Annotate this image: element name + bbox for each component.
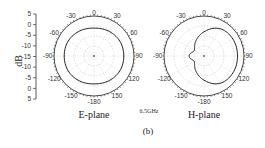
radiation-pattern-figure: 50-5-10-15-10-505 dB 0306090120150-180-1… — [0, 0, 265, 148]
db-tick-label: -5 — [25, 31, 31, 38]
angle-tick-label: -180 — [87, 98, 100, 105]
angle-tick-label: 30 — [113, 12, 121, 19]
h-plane-title: H-plane — [188, 109, 221, 120]
angle-tick-label: 150 — [222, 92, 233, 99]
h-plane-polar-plot: 0306090120150-180-150-120-90-60-30 — [153, 9, 253, 106]
db-axis: 50-5-10-15-10-505 dB — [13, 10, 36, 102]
angle-tick-label: 120 — [128, 75, 139, 82]
db-tick-label: -10 — [22, 42, 32, 49]
db-axis-label: dB — [13, 55, 24, 67]
db-tick-label: 5 — [27, 10, 31, 17]
e-plane-title: E-plane — [78, 109, 110, 120]
angle-tick-label: -90 — [153, 52, 163, 59]
db-tick-label: 0 — [27, 21, 31, 28]
angle-tick-label: -60 — [159, 29, 169, 36]
frequency-label: 6.5GHz — [140, 108, 159, 114]
db-tick-label: 0 — [27, 85, 31, 92]
angle-tick-label: 0 — [202, 9, 206, 16]
angle-tick-label: 120 — [238, 75, 249, 82]
angle-tick-label: 150 — [112, 92, 123, 99]
angle-tick-label: 30 — [223, 12, 231, 19]
angle-tick-label: 90 — [246, 52, 254, 59]
angle-tick-label: -90 — [43, 52, 53, 59]
angle-tick-label: -150 — [174, 92, 187, 99]
angle-tick-label: 60 — [130, 29, 138, 36]
angle-tick-label: -30 — [66, 12, 76, 19]
figure-caption: (b) — [143, 126, 154, 136]
angle-tick-label: -120 — [158, 75, 171, 82]
angle-tick-label: -120 — [48, 75, 61, 82]
angle-tick-label: -150 — [64, 92, 77, 99]
e-plane-polar-plot: 0306090120150-180-150-120-90-60-30 — [43, 9, 143, 106]
angle-tick-label: -60 — [49, 29, 59, 36]
angle-tick-label: 60 — [240, 29, 248, 36]
angle-tick-label: 90 — [136, 52, 144, 59]
angle-tick-label: 0 — [92, 9, 96, 16]
angle-tick-label: -180 — [197, 98, 210, 105]
angle-tick-label: -30 — [176, 12, 186, 19]
db-tick-label: 5 — [27, 95, 31, 102]
db-tick-label: -5 — [25, 74, 31, 81]
